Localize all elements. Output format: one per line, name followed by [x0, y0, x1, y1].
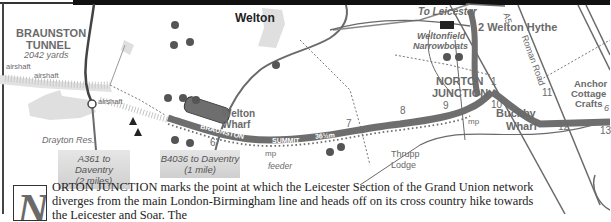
label-norton-junction: NORTON	[436, 76, 483, 87]
lock-number: 13	[600, 126, 611, 136]
label-welton-wharf: Welton	[222, 109, 255, 119]
sign-b4036-line2: (1 mile)	[160, 164, 240, 175]
label-airshaft: airshaft	[6, 63, 31, 71]
label-anchor-cottage-3: Crafts	[575, 99, 602, 109]
label-welton: Welton	[235, 12, 275, 24]
label-thrupp-lodge-2: Lodge	[391, 161, 416, 170]
lock-number: 1	[491, 77, 497, 87]
sign-b4036: B4036 to Daventry (1 mile)	[160, 150, 240, 178]
canal-label-pound: 36½m	[315, 131, 335, 139]
label-tunnel-length: 2042 yards	[24, 51, 69, 60]
label-to-leicester: To Leicester	[418, 7, 477, 17]
lock-number: 12	[558, 122, 569, 132]
label-airshaft: airshaft	[98, 98, 123, 106]
lock-number: 6	[210, 138, 216, 148]
label-milepost: mp	[265, 150, 276, 158]
sign-b4036-line1: B4036 to Daventry	[160, 153, 240, 164]
lock-number: 7	[346, 119, 352, 129]
lock-number: 10	[491, 100, 502, 110]
label-norton-junction-2: JUNCTION	[432, 88, 488, 99]
label-feeder: feeder	[268, 162, 292, 171]
sign-a361-line1: A361 to Daventry	[58, 153, 130, 175]
label-weltonfield-2: Narrowboats	[413, 42, 468, 51]
label-drayton-res: Drayton Res.	[42, 136, 95, 145]
canal-label-summit: SUMMIT	[272, 137, 300, 144]
label-braunston-tunnel: BRAUNSTON	[16, 28, 86, 39]
lock-number: 11	[542, 88, 552, 98]
label-buckby-wharf-2: Wharf	[506, 121, 537, 132]
body-text-line: ORTON JUNCTION marks the point at which …	[52, 180, 572, 194]
label-weltonfield: Weltonfield	[417, 32, 465, 41]
drop-cap: N	[13, 185, 47, 221]
lock-number: 8	[400, 106, 406, 116]
body-text-line: diverges from the main London-Birmingham…	[52, 194, 572, 208]
label-thrupp-lodge: Thrupp	[391, 150, 420, 159]
body-text: ORTON JUNCTION marks the point at which …	[52, 180, 572, 222]
bridge-number: 6	[604, 104, 609, 113]
label-welton-hythe: 2 Welton Hythe	[478, 22, 557, 33]
body-text-line: the Leicester and Soar. The	[52, 208, 572, 222]
label-airshaft: airshaft	[34, 72, 59, 80]
label-a5: A5	[501, 12, 513, 25]
lock-number: 9	[443, 101, 449, 111]
label-milepost: mp	[468, 118, 479, 126]
